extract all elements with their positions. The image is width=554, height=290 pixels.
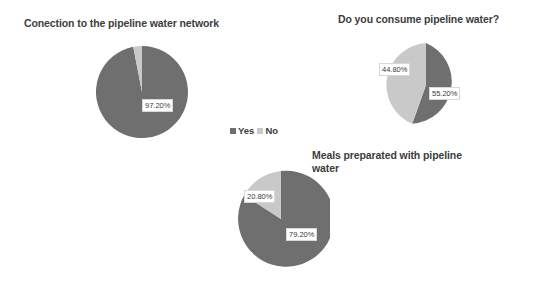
chart-meals-pie: 79.20% 20.80% xyxy=(232,170,330,268)
chart-meals-title: Meals preparated with pipeline water xyxy=(312,149,492,175)
pie-svg-meals xyxy=(232,170,330,268)
chart-consume-pie: 55.20% 44.80% xyxy=(383,42,469,128)
pie-label-meals-no: 20.80% xyxy=(244,190,275,203)
pie-label-meals-yes: 79.20% xyxy=(286,228,317,241)
pie-svg-connection xyxy=(94,44,190,140)
legend-label-no: No xyxy=(265,125,278,136)
chart-connection-title: Conection to the pipeline water network xyxy=(24,17,264,30)
legend-swatch-yes-icon xyxy=(230,128,236,134)
legend-swatch-no-icon xyxy=(257,128,263,134)
chart-consume: Do you consume pipeline water? 55.20% 44… xyxy=(330,0,554,140)
legend: Yes No xyxy=(230,125,278,136)
chart-connection-pie: 97.20% xyxy=(94,44,190,140)
chart-consume-title: Do you consume pipeline water? xyxy=(338,13,554,26)
pie-svg-consume xyxy=(383,42,469,128)
pie-label-consume-yes: 55.20% xyxy=(429,87,460,100)
chart-meals: Meals preparated with pipeline water 79.… xyxy=(190,145,554,290)
legend-label-yes: Yes xyxy=(238,125,254,136)
legend-item-yes[interactable]: Yes xyxy=(230,125,254,136)
legend-item-no[interactable]: No xyxy=(257,125,278,136)
pie-label-consume-no: 44.80% xyxy=(379,63,410,76)
pie-label-connection-yes: 97.20% xyxy=(142,99,173,112)
